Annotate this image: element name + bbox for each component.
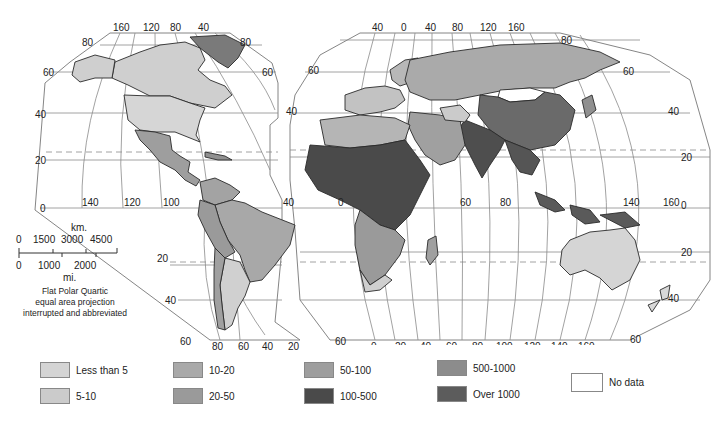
svg-text:40: 40 [425, 22, 437, 33]
eurasia-lon-labels-top: 40 0 40 80 120 160 [372, 22, 525, 33]
svg-text:60: 60 [630, 334, 642, 345]
scale-km-1500: 1500 [33, 234, 55, 245]
americas-lon-labels-bottom: 80 60 40 20 [210, 341, 310, 353]
svg-text:60: 60 [460, 197, 472, 208]
lon-label: 60 [238, 341, 249, 352]
legend-item-no-data: No data [571, 374, 644, 390]
legend-item-500-1000: 500-1000 [437, 360, 515, 376]
svg-text:80: 80 [472, 341, 484, 345]
svg-text:60: 60 [446, 341, 458, 345]
projection-note-line-2: equal area projection [0, 297, 150, 308]
svg-text:60: 60 [180, 336, 192, 345]
legend-item-100-500: 100-500 [304, 388, 377, 404]
legend-item-50-100: 50-100 [304, 362, 371, 378]
projection-note: Flat Polar Quartic equal area projection… [0, 286, 150, 319]
svg-text:60: 60 [623, 66, 635, 77]
scale-line [16, 246, 146, 260]
projection-note-line-1: Flat Polar Quartic [0, 286, 150, 297]
projection-note-line-3: interrupted and abbreviated [0, 308, 150, 319]
svg-text:160: 160 [508, 22, 525, 33]
svg-text:120: 120 [480, 22, 497, 33]
svg-text:0: 0 [40, 203, 46, 214]
svg-text:0: 0 [371, 341, 377, 345]
svg-text:80: 80 [500, 197, 512, 208]
legend-label: 100-500 [340, 391, 377, 402]
scale-km-0: 0 [16, 234, 22, 245]
svg-text:80: 80 [561, 35, 573, 46]
svg-text:120: 120 [124, 197, 141, 208]
new-zealand [648, 285, 670, 312]
svg-text:0: 0 [681, 200, 687, 211]
madagascar [426, 236, 438, 265]
svg-text:40: 40 [420, 341, 432, 345]
svg-text:140: 140 [623, 197, 640, 208]
legend-swatch [437, 360, 467, 376]
legend-label: No data [609, 377, 644, 388]
scale-km-4500: 4500 [90, 234, 112, 245]
svg-text:140: 140 [82, 197, 99, 208]
svg-text:80: 80 [170, 22, 182, 33]
legend-swatch [571, 373, 603, 392]
legend-label: 50-100 [340, 365, 371, 376]
alaska [72, 55, 115, 82]
svg-text:40: 40 [286, 106, 298, 117]
svg-text:120: 120 [524, 341, 541, 345]
scale-km-label: km. [71, 222, 87, 233]
legend: Less than 5 5-10 10-20 20-50 50-100 100-… [0, 358, 727, 418]
scale-mi-1000: 1000 [38, 260, 60, 271]
legend-swatch [173, 388, 203, 404]
svg-text:80: 80 [452, 22, 464, 33]
legend-label: 5-10 [76, 391, 96, 402]
scale-mi-2000: 2000 [74, 260, 96, 271]
svg-text:160: 160 [113, 22, 130, 33]
svg-text:20: 20 [681, 152, 693, 163]
legend-item-20-50: 20-50 [173, 388, 235, 404]
svg-text:20: 20 [157, 253, 169, 264]
scale-mi-label: mi. [63, 272, 76, 283]
lon-label: 20 [288, 341, 299, 352]
lon-label: 40 [262, 341, 273, 352]
svg-text:40: 40 [165, 295, 177, 306]
svg-text:60: 60 [43, 67, 55, 78]
svg-text:60: 60 [262, 67, 274, 78]
western-europe [345, 86, 405, 115]
legend-item-5-10: 5-10 [40, 388, 96, 404]
americas-lon-labels-top: 160 120 80 40 [113, 22, 210, 33]
australia [560, 228, 640, 290]
legend-item-over-1000: Over 1000 [437, 386, 520, 402]
americas-lon-labels-equator: 140 120 100 40 [82, 197, 295, 208]
svg-text:40: 40 [668, 106, 680, 117]
svg-text:80: 80 [82, 37, 94, 48]
svg-text:40: 40 [668, 293, 680, 304]
svg-text:60: 60 [308, 65, 320, 76]
legend-label: Over 1000 [473, 389, 520, 400]
legend-label: 10-20 [209, 365, 235, 376]
svg-text:20: 20 [35, 155, 47, 166]
korea-japan [582, 95, 596, 118]
svg-text:120: 120 [143, 22, 160, 33]
svg-text:20: 20 [681, 247, 693, 258]
svg-text:80: 80 [240, 37, 252, 48]
svg-text:100: 100 [496, 341, 513, 345]
svg-text:20: 20 [395, 341, 407, 345]
svg-text:0: 0 [401, 22, 407, 33]
svg-text:160: 160 [578, 341, 595, 345]
legend-swatch [304, 362, 334, 378]
legend-swatch [304, 388, 334, 404]
legend-label: 500-1000 [473, 363, 515, 374]
legend-label: Less than 5 [76, 365, 128, 376]
legend-swatch [40, 362, 70, 378]
legend-swatch [173, 362, 203, 378]
svg-text:160: 160 [663, 197, 680, 208]
scale-mi-0: 0 [16, 260, 22, 271]
svg-text:40: 40 [283, 197, 295, 208]
svg-text:40: 40 [372, 22, 384, 33]
legend-item-less-than-5: Less than 5 [40, 362, 128, 378]
svg-text:0: 0 [338, 197, 344, 208]
legend-label: 20-50 [209, 391, 235, 402]
iran [440, 105, 470, 122]
svg-text:40: 40 [35, 109, 47, 120]
scale-km-3000: 3000 [61, 234, 83, 245]
legend-item-10-20: 10-20 [173, 362, 235, 378]
svg-text:60: 60 [335, 336, 347, 345]
